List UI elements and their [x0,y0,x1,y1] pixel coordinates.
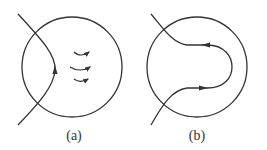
diagram-canvas: (a) (b) [0,0,267,150]
panel-b: (b) [147,14,247,144]
curve-arrow-up-icon [53,65,58,74]
arrow-right-icon [199,86,208,91]
arrow-left-icon [201,43,210,48]
panel-a: (a) [18,14,122,144]
boundary-circle-a [22,17,122,117]
field-arrow-icon [74,52,89,55]
field-arrow-icon [70,67,90,70]
field-arrows [70,52,90,81]
panel-label-a: (a) [66,128,82,144]
panel-label-b: (b) [189,128,206,144]
field-arrow-icon [74,79,88,81]
crossing-curve-a [18,14,55,125]
